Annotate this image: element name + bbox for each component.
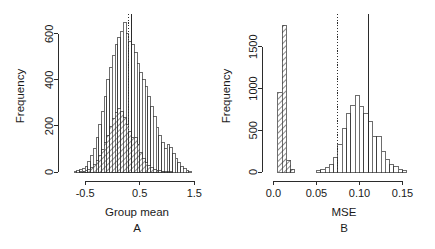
histogram-bar [88,169,91,172]
histogram-bar [110,127,113,172]
panel-b-plot: 0500100015000.00.050.100.15MSEFrequencyB [218,0,435,249]
histogram-bar [403,170,407,172]
histogram-bar [96,161,99,172]
histogram-bar [91,167,94,172]
y-tick-label: 0 [43,169,55,175]
figure-container: 0200400600-0.50.51.5Group meanFrequencyA… [0,0,435,249]
histogram-bar [156,170,159,172]
histogram-bar [140,153,143,172]
x-tick-label: 0.15 [392,187,413,199]
x-tick-label: 0.10 [349,187,370,199]
histogram-bar [329,164,333,172]
histogram-bar [164,172,167,173]
histogram-bar [102,150,105,172]
histogram-bar [390,164,394,172]
histogram-bar [291,169,295,172]
plot-area-B [278,14,407,172]
histogram-bar [394,167,398,172]
histogram-bar [118,109,121,172]
hatched-histogram-B [278,25,295,172]
y-tick-label: 500 [247,121,259,139]
panel-a: 0200400600-0.50.51.5Group meanFrequencyA [0,0,218,249]
y-tick-label: 0 [247,169,259,175]
x-axis-title-B: MSE [332,206,357,218]
histogram-bar [153,117,156,172]
histogram-bar [93,165,96,172]
histogram-bar [342,129,346,172]
histogram-bar [189,171,192,172]
plot-area-A [74,14,191,172]
histogram-bar [74,172,77,173]
x-tick-label: 1.5 [187,187,202,199]
histogram-bar [137,144,140,172]
histogram-bar [99,156,102,172]
panel-a-plot: 0200400600-0.50.51.5Group meanFrequencyA [0,0,218,249]
histogram-bar [151,106,154,172]
histogram-bar [164,149,167,172]
histogram-bar [145,87,148,172]
histogram-bar [142,159,145,172]
y-tick-label: 200 [43,117,55,135]
histogram-bar [162,171,165,172]
x-tick-label: -0.5 [76,187,95,199]
histogram-bar [347,114,351,172]
histogram-bar [278,93,282,172]
histogram-bar [148,166,151,172]
histogram-bar [156,127,159,172]
histogram-bar [359,106,363,172]
histogram-bar [381,151,385,172]
histogram-bar [398,169,402,172]
histogram-bar [142,80,145,172]
x-tick-label: 0.05 [306,187,327,199]
y-tick-label: 1000 [247,76,259,100]
histogram-bar [178,163,181,172]
histogram-bar [167,145,170,172]
histogram-bar [148,96,151,172]
y-tick-label: 400 [43,71,55,89]
y-tick-label: 600 [43,25,55,43]
histogram-bar [355,95,359,172]
histogram-bar [123,118,126,172]
y-axis-title-A: Frequency [14,69,26,124]
histogram-bar [159,171,162,172]
histogram-bar [377,137,381,172]
histogram-bar [112,119,115,172]
histogram-bar [351,105,355,172]
panel-letter-A: A [133,222,141,234]
histogram-bar [115,113,118,172]
histogram-bar [167,172,170,173]
histogram-bar [170,172,173,173]
histogram-bar [282,25,286,172]
histogram-bar [286,160,290,172]
y-tick-label: 1500 [247,34,259,58]
y-axis-title-B: Frequency [220,69,232,124]
histogram-bar [186,170,189,172]
x-axis-title-A: Group mean [105,206,169,218]
panel-letter-B: B [340,222,348,234]
histogram-bar [175,158,178,172]
histogram-bar [325,167,329,172]
histogram-bar [77,171,80,172]
histogram-bar [104,143,107,172]
histogram-bar [173,154,176,172]
histogram-bar [385,159,389,172]
histogram-bar [134,137,137,172]
x-tick-label: 0.5 [132,187,147,199]
histogram-bar [316,171,320,172]
histogram-bar [338,144,342,172]
histogram-bar [183,169,186,172]
histogram-bar [321,170,325,172]
histogram-bar [145,163,148,172]
histogram-bar [85,170,88,172]
panel-b: 0500100015000.00.050.100.15MSEFrequencyB [218,0,435,249]
histogram-bar [159,135,162,172]
open-histogram-B [316,95,406,172]
histogram-bar [107,135,110,172]
histogram-bar [151,168,154,172]
histogram-bar [372,136,376,172]
histogram-bar [121,112,124,172]
histogram-bar [364,114,368,172]
histogram-bar [80,172,83,173]
histogram-bar [153,169,156,172]
histogram-bar [132,138,135,172]
